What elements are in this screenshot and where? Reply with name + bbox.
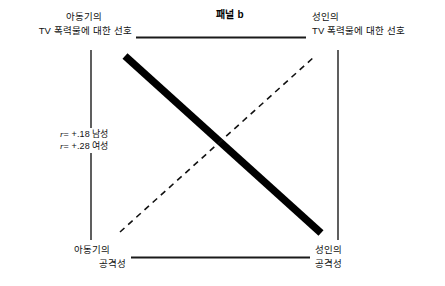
node-label-adult-tv-preference-line1: 성인의 (312, 10, 445, 24)
correlation-annotation: r= +.18 남성 r= +.28 여성 (60, 128, 152, 153)
diagram-canvas: 패널 b 아동기의 TV 폭력물에 대한 선호 성인의 TV 폭력물에 대한 선… (0, 0, 445, 286)
correlation-line-male: r= +.18 남성 (60, 129, 152, 141)
node-label-childhood-tv-preference-line1: 아동기의 (0, 10, 132, 24)
node-label-childhood-aggression: 아동기의 공격성 (0, 243, 126, 270)
panel-title: 패널 b (170, 8, 290, 22)
node-label-adult-aggression-line2: 공격성 (315, 257, 445, 271)
node-label-adult-tv-preference: 성인의 TV 폭력물에 대한 선호 (312, 10, 445, 37)
node-label-childhood-aggression-line2: 공격성 (0, 257, 126, 271)
node-label-adult-aggression-line1: 성인의 (315, 243, 445, 257)
thick-diagonal-path (125, 56, 321, 233)
node-label-adult-aggression: 성인의 공격성 (315, 243, 445, 270)
correlation-value-male: = +.18 남성 (64, 129, 109, 139)
node-label-childhood-tv-preference-line2: TV 폭력물에 대한 선호 (0, 24, 132, 38)
correlation-value-female: = +.28 여성 (64, 141, 109, 151)
node-label-adult-tv-preference-line2: TV 폭력물에 대한 선호 (312, 24, 445, 38)
correlation-line-female: r= +.28 여성 (60, 141, 152, 153)
node-label-childhood-tv-preference: 아동기의 TV 폭력물에 대한 선호 (0, 10, 132, 37)
node-label-childhood-aggression-line1: 아동기의 (0, 243, 126, 257)
